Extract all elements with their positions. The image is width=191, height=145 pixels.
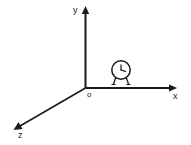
diagram-canvas: y x z o (0, 0, 191, 145)
origin-label: o (87, 90, 91, 99)
clock-center-pin (120, 69, 121, 70)
clock-icon (112, 61, 131, 85)
axes-drawing (0, 0, 191, 145)
y-axis (82, 6, 89, 88)
z-axis (14, 88, 86, 130)
x-axis (86, 84, 178, 91)
x-axis-label: x (173, 92, 178, 101)
y-axis-label: y (73, 6, 78, 15)
y-axis-arrowhead-icon (82, 6, 89, 14)
z-axis-label: z (18, 131, 23, 140)
z-axis-line (20, 88, 86, 126)
